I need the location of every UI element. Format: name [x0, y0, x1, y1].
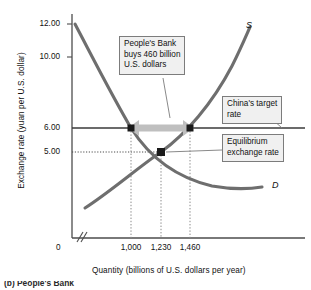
x-axis-title: Quantity (billions of U.S. dollars per y… — [92, 266, 246, 275]
exchange-rate-figure: Exchange rate (yuan per U.S. dollar) Qua… — [0, 0, 311, 290]
axis-break-icon — [77, 232, 87, 242]
callout-bank-line3: U.S. dollars — [124, 60, 180, 71]
demand-curve-label: D — [272, 180, 279, 190]
y-axis-title: Exchange rate (yuan per U.S. dollar) — [17, 36, 26, 206]
y-axis-ticks — [67, 24, 72, 57]
supply-curve-label: S — [246, 20, 252, 30]
callout-bank-purchase: People's Bank buys 460 billion U.S. doll… — [119, 36, 185, 75]
drop-lines — [131, 128, 190, 238]
purchase-gap-arrow — [128, 120, 194, 136]
marker-equilibrium-point — [157, 148, 165, 156]
figure-caption-text: (b) People's Bank — [4, 281, 74, 288]
leader-line-equilibrium — [166, 150, 222, 152]
callout-china-target-rate: China's target rate — [222, 96, 282, 124]
callout-bank-line2: buys 460 billion — [124, 50, 180, 61]
x-tick-label-1460: 1,460 — [171, 243, 209, 252]
y-tick-label-12: 12.00 — [20, 19, 60, 28]
callout-equilibrium-line2: exchange rate — [227, 148, 279, 159]
callout-target-line2: rate — [227, 110, 277, 121]
leader-line-bank — [163, 78, 170, 118]
callout-target-line1: China's target — [227, 99, 277, 110]
marker-demand-at-target — [128, 125, 135, 132]
callout-bank-line1: People's Bank — [124, 39, 180, 50]
origin-label: 0 — [56, 243, 61, 252]
figure-caption-clipped: (b) People's Bank — [0, 281, 311, 290]
y-tick-label-10: 10.00 — [20, 52, 60, 61]
y-tick-label-6: 6.00 — [20, 123, 60, 132]
callout-equilibrium-rate: Equilibrium exchange rate — [222, 134, 284, 162]
y-tick-label-5: 5.00 — [20, 147, 60, 156]
marker-supply-at-target — [187, 125, 194, 132]
callout-equilibrium-line1: Equilibrium — [227, 137, 279, 148]
